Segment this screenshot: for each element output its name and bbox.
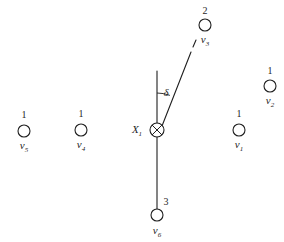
node-circle-v2[interactable] [264,80,276,92]
node-name-sub-v2: 2 [271,101,275,109]
force-vector-diagram: 1v51v41v11v22v33v6 δ X1 [0,0,284,242]
node-name-sub-v4: 4 [82,145,86,153]
node-count-v4: 1 [79,109,84,119]
node-count-v5: 1 [22,110,27,120]
node-count-v1: 1 [237,109,242,119]
center-label-sub: 1 [139,130,143,138]
node-name-v2: v2 [266,95,274,109]
node-name-v5: v5 [20,140,28,154]
node-circle-v5[interactable] [18,125,30,137]
node-name-sub-v3: 3 [206,40,210,48]
slanted-vector-dash [193,40,196,47]
node-name-v6: v6 [153,225,161,239]
node-count-v6: 3 [164,197,169,207]
center-label-base: X [132,123,139,135]
node-name-sub-v6: 6 [158,231,162,239]
node-name-v4: v4 [77,139,85,153]
node-circle-v6[interactable] [151,209,163,221]
diagram-canvas [0,0,284,242]
node-circle-v1[interactable] [233,124,245,136]
node-circle-v4[interactable] [75,124,87,136]
node-name-v3: v3 [201,34,209,48]
node-circle-v3[interactable] [199,19,211,31]
crossed-circle-icon [150,123,164,137]
node-circle-group [18,19,276,221]
node-count-v2: 1 [268,66,273,76]
node-name-sub-v1: 1 [240,145,244,153]
node-name-sub-v5: 5 [25,146,29,154]
node-count-v3: 2 [203,6,208,16]
node-name-v1: v1 [235,139,243,153]
center-point-label: X1 [132,124,142,138]
angle-label-delta: δ [163,87,168,98]
